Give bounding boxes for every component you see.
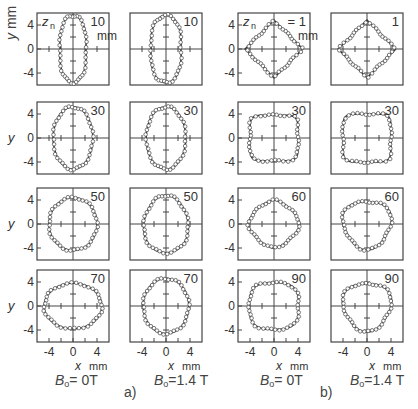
data-point <box>158 331 162 335</box>
data-point <box>58 44 62 48</box>
data-point <box>279 114 283 118</box>
y-tick-label: 4 <box>228 18 235 32</box>
data-point <box>345 159 349 163</box>
x-axis-label: x <box>368 359 376 373</box>
data-point <box>179 244 183 248</box>
data-point <box>266 160 270 164</box>
y-tick-label: 4 <box>228 107 235 121</box>
data-point <box>87 244 91 248</box>
panel-a-1.4T-z30: 30 <box>130 102 202 174</box>
data-point <box>151 200 155 204</box>
data-point <box>270 245 274 249</box>
data-point <box>390 42 394 46</box>
data-point <box>179 35 183 39</box>
data-point <box>292 322 296 326</box>
data-point <box>342 137 346 141</box>
data-point <box>85 200 89 204</box>
data-point <box>341 298 345 302</box>
data-point <box>143 293 147 297</box>
data-point <box>183 242 187 246</box>
data-point <box>387 210 391 214</box>
data-point <box>251 321 255 325</box>
panel-a-0T-z50: 5040-4y <box>7 188 109 260</box>
z-value-label: 1 <box>392 14 399 29</box>
data-point <box>85 40 89 44</box>
data-point <box>66 195 70 199</box>
data-point <box>149 156 153 160</box>
field-label-b-0T: Bo= 0T <box>260 372 303 389</box>
data-point <box>186 216 190 220</box>
y-tick-label: 0 <box>228 131 235 145</box>
data-point <box>376 112 380 116</box>
data-point <box>150 39 154 43</box>
data-point <box>42 305 46 309</box>
data-point <box>183 135 187 139</box>
data-point <box>162 251 166 255</box>
y-axis-label: y mm <box>3 6 19 40</box>
y-tick-label: 0 <box>27 131 34 145</box>
data-point <box>94 217 98 221</box>
data-point <box>179 326 183 330</box>
data-point <box>341 220 345 224</box>
data-point <box>250 316 254 320</box>
data-point <box>295 128 299 132</box>
x-axis-unit: mm <box>383 360 401 372</box>
x-tick-label: -4 <box>137 345 148 359</box>
data-point <box>282 160 286 164</box>
data-point <box>387 118 391 122</box>
data-point <box>163 277 167 281</box>
data-point <box>350 321 354 325</box>
data-point <box>182 323 186 327</box>
data-point <box>77 326 81 330</box>
data-point <box>174 278 178 282</box>
data-point <box>185 294 189 298</box>
data-point <box>350 204 354 208</box>
data-point <box>186 230 190 234</box>
data-point <box>179 51 183 55</box>
data-point <box>145 289 149 293</box>
data-point <box>142 306 146 310</box>
zn-label: z <box>242 14 250 29</box>
data-point <box>251 286 255 290</box>
data-point <box>350 285 354 289</box>
data-point <box>55 119 59 123</box>
x-axis-label: x <box>74 359 82 373</box>
data-point <box>151 63 155 67</box>
z-value-label: 50 <box>91 189 105 204</box>
data-point <box>184 315 188 319</box>
data-point <box>282 328 286 332</box>
data-point <box>53 287 57 291</box>
data-point <box>261 160 265 164</box>
data-point <box>296 303 300 307</box>
panel-b-0T-z1: = 1znmm40-4 <box>224 13 318 85</box>
data-point <box>375 201 379 205</box>
group-a-label: a) <box>124 384 136 400</box>
data-point <box>53 205 57 209</box>
data-point <box>58 33 62 37</box>
data-point <box>53 123 57 127</box>
data-point <box>297 228 301 232</box>
data-point <box>143 214 147 218</box>
data-point <box>267 22 271 26</box>
data-point <box>89 125 93 129</box>
data-point <box>86 325 90 329</box>
data-point <box>372 24 376 28</box>
data-point <box>52 321 56 325</box>
data-point <box>248 137 252 141</box>
data-point <box>248 126 252 130</box>
data-point <box>341 145 345 149</box>
y-tick-label: -4 <box>224 241 235 255</box>
data-point <box>250 153 254 157</box>
data-point <box>97 296 101 300</box>
svg-text:n: n <box>50 21 55 31</box>
data-point <box>275 113 279 117</box>
data-point <box>247 141 251 145</box>
z-value-label: 90 <box>292 271 306 286</box>
data-point <box>374 328 378 332</box>
data-point <box>297 315 301 319</box>
panel-a-0T-z70: 7040-4-404xmmy <box>7 270 109 373</box>
data-point <box>359 69 363 73</box>
data-point <box>343 208 347 212</box>
zn-label: z <box>41 14 49 29</box>
x-tick-label: -4 <box>338 345 349 359</box>
